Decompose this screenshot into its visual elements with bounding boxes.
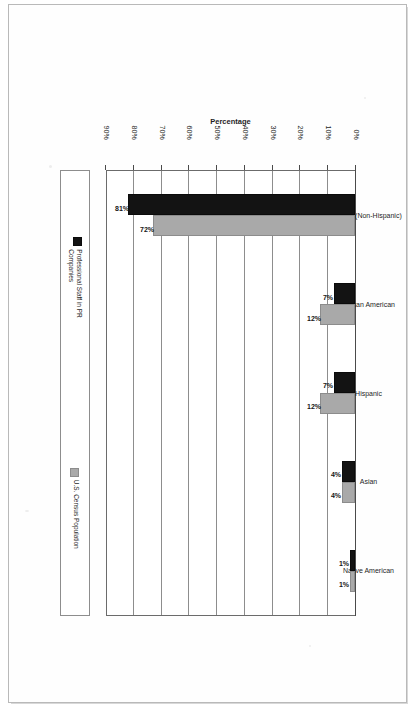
- bar-group-hispanic: Hispanic 7% 12%: [106, 349, 355, 438]
- category-label-text: Hispanic: [355, 389, 382, 396]
- ytick-40: [244, 165, 245, 170]
- bar-value-label: 7%: [323, 382, 333, 389]
- category-label-hispanic: Hispanic: [365, 388, 372, 398]
- bar-hispanic-us-census[interactable]: 12%: [320, 393, 355, 414]
- scan-speckle: [309, 645, 311, 647]
- bar-value-label: 1%: [339, 560, 349, 567]
- bar-african-american-us-census[interactable]: 12%: [320, 304, 355, 325]
- ytick-20: [300, 165, 301, 170]
- bar-asian-professional-staff[interactable]: 4%: [342, 461, 355, 482]
- category-label-white-non-hispanic: White (Non-Hispanic): [365, 210, 372, 220]
- category-label-text: Asian: [360, 478, 378, 485]
- bar-white-professional-staff[interactable]: 81%: [128, 194, 355, 215]
- bar-value-label: 7%: [323, 294, 333, 301]
- bar-group-african-american: African American 7% 12%: [106, 260, 355, 349]
- bar-hispanic-professional-staff[interactable]: 7%: [334, 372, 355, 393]
- ytick-50: [216, 165, 217, 170]
- bar-native-american-professional-staff[interactable]: 1%: [350, 550, 355, 571]
- ytick-10: [327, 165, 328, 170]
- ytick-30: [272, 165, 273, 170]
- bar-group-native-american: Native American 1% 1%: [106, 526, 355, 615]
- rotated-chart-wrapper: 0% 10% 20% 30% 40% 50% 60% 70% 80% 90% P…: [52, 78, 382, 638]
- bar-group-white-non-hispanic: White (Non-Hispanic) 81% 72%: [106, 171, 355, 260]
- bar-value-label: 4%: [331, 492, 341, 499]
- legend-item-us-census[interactable]: U.S. Census Population: [70, 468, 80, 549]
- legend-label: U.S. Census Population: [72, 480, 80, 549]
- bar-chart: 0% 10% 20% 30% 40% 50% 60% 70% 80% 90% P…: [52, 78, 382, 638]
- ytick-0: [355, 165, 356, 170]
- bar-white-us-census[interactable]: 72%: [153, 215, 355, 236]
- legend-label: Professional Staff in PR Companies: [67, 249, 83, 335]
- ytick-60: [188, 165, 189, 170]
- bar-value-label: 12%: [307, 315, 321, 322]
- value-axis-title: Percentage: [106, 112, 356, 130]
- bar-value-label: 12%: [307, 403, 321, 410]
- bar-value-label: 4%: [331, 471, 341, 478]
- bar-asian-us-census[interactable]: 4%: [342, 482, 355, 503]
- ytick-90: [105, 165, 106, 170]
- bar-native-american-us-census[interactable]: 1%: [350, 571, 355, 592]
- category-label-african-american: African American: [365, 299, 372, 309]
- category-label-native-american: Native American: [365, 566, 372, 576]
- ytick-80: [133, 165, 134, 170]
- chart-legend: Professional Staff in PR Companies U.S. …: [60, 170, 90, 616]
- bar-group-asian: Asian 4% 4%: [106, 437, 355, 526]
- bar-african-american-professional-staff[interactable]: 7%: [334, 283, 355, 304]
- bar-value-label: 72%: [140, 226, 154, 233]
- bar-value-label: 1%: [339, 581, 349, 588]
- scanned-page: 0% 10% 20% 30% 40% 50% 60% 70% 80% 90% P…: [8, 4, 407, 703]
- legend-swatch-icon: [73, 237, 82, 246]
- legend-swatch-icon: [70, 468, 79, 477]
- legend-item-professional-staff[interactable]: Professional Staff in PR Companies: [67, 237, 83, 335]
- category-label-asian: Asian: [365, 477, 372, 487]
- bar-series-container: White (Non-Hispanic) 81% 72% African Ame…: [106, 171, 355, 615]
- bar-value-label: 81%: [115, 205, 129, 212]
- scan-speckle: [25, 510, 29, 512]
- ytick-70: [161, 165, 162, 170]
- value-axis-title-text: Percentage: [211, 117, 251, 126]
